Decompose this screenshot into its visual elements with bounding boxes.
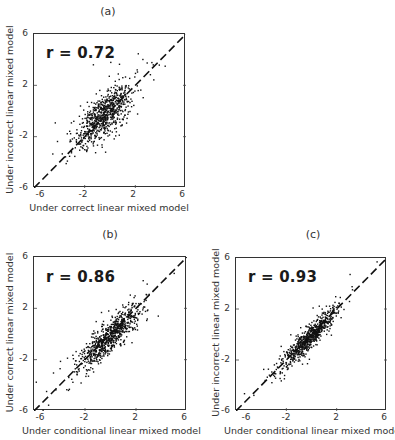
yaxis-label-b: Under correct linear mixed model xyxy=(4,252,15,414)
xtick-a-6: 6 xyxy=(172,189,192,199)
data-points xyxy=(36,273,175,411)
yaxis-label-c: Under incorrect linear mixed model xyxy=(210,248,221,418)
xtick-c-2: 2 xyxy=(326,412,346,422)
xaxis-label-a: Under correct linear mixed model xyxy=(28,202,190,213)
xtick-a-2: 2 xyxy=(123,189,143,199)
correlation-label-c: r = 0.93 xyxy=(248,268,317,286)
correlation-label-a: r = 0.72 xyxy=(46,44,115,62)
scatter-plot-c: r = 0.93 xyxy=(235,257,386,410)
xtick-b-neg2: -2 xyxy=(74,412,94,422)
xaxis-label-c: Under conditional linear mixed model xyxy=(224,425,395,436)
xtick-b-2: 2 xyxy=(125,412,145,422)
correlation-label-b: r = 0.86 xyxy=(46,268,115,286)
yaxis-label-a: Under incorrect linear mixed model xyxy=(4,25,15,195)
xtick-b-neg6: -6 xyxy=(30,412,50,422)
panel-a-title: (a) xyxy=(88,5,128,18)
xtick-c-neg6: -6 xyxy=(236,412,256,422)
scatter-plot-a: r = 0.72 xyxy=(33,33,185,187)
xtick-b-6: 6 xyxy=(174,412,194,422)
xtick-c-6: 6 xyxy=(374,412,394,422)
xtick-a-neg6: -6 xyxy=(30,189,50,199)
panel-b-title: (b) xyxy=(90,228,130,241)
panel-c-title: (c) xyxy=(293,228,333,241)
data-points xyxy=(52,53,166,164)
xaxis-label-b: Under conditional linear mixed model xyxy=(22,425,198,436)
xtick-a-neg2: -2 xyxy=(73,189,93,199)
scatter-plot-b: r = 0.86 xyxy=(33,256,186,410)
xtick-c-neg2: -2 xyxy=(276,412,296,422)
